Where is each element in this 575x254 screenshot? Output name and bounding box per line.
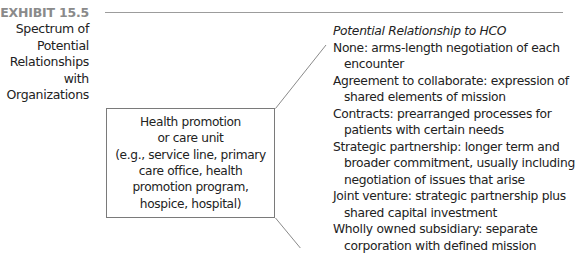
relationship-item-strategic-partnership: Strategic partnership: longer term and b…: [333, 139, 567, 189]
relationship-item-line: negotiation of issues that arise: [333, 172, 567, 189]
lower-connector-line: [276, 218, 303, 248]
exhibit-caption: EXHIBIT 15.5 Spectrum of Potential Relat…: [0, 4, 89, 104]
exhibit-title-line: Relationships: [0, 54, 89, 71]
relationship-item-line: shared elements of mission: [333, 89, 567, 106]
relationship-item-line: Wholly owned subsidiary: separate: [333, 221, 567, 238]
exhibit-number: EXHIBIT 15.5: [0, 4, 89, 21]
relationship-item-line: corporation with defined mission: [333, 238, 567, 254]
relationship-item-wholly-owned-subsidiary: Wholly owned subsidiary: separate corpor…: [333, 221, 567, 254]
unit-box-line: hospice, hospital): [115, 196, 266, 212]
relationship-list: Potential Relationship to HCO None: arms…: [333, 23, 567, 254]
upper-connector-line: [276, 45, 327, 109]
relationship-item-none: None: arms-length negotiation of each en…: [333, 40, 567, 73]
relationship-item-line: Strategic partnership: longer term and: [333, 139, 567, 156]
relationship-item-line: encounter: [333, 56, 567, 73]
relationship-item-line: Agreement to collaborate: expression of: [333, 73, 567, 90]
exhibit-title-line: Organizations: [0, 87, 89, 104]
relationship-item-line: Contracts: prearranged processes for: [333, 106, 567, 123]
relationship-item-joint-venture: Joint venture: strategic partnership plu…: [333, 188, 567, 221]
top-divider-rule: [105, 12, 563, 13]
exhibit-title-line: Potential: [0, 38, 89, 55]
unit-box-text: Health promotion or care unit (e.g., ser…: [115, 114, 266, 212]
relationship-item-line: patients with certain needs: [333, 122, 567, 139]
unit-box-line: Health promotion: [115, 114, 266, 130]
unit-box-line: or care unit: [115, 130, 266, 146]
unit-box-line: promotion program,: [115, 179, 266, 195]
relationship-item-line: Joint venture: strategic partnership plu…: [333, 188, 567, 205]
relationship-item-contracts: Contracts: prearranged processes for pat…: [333, 106, 567, 139]
relationship-item-agreement: Agreement to collaborate: expression of …: [333, 73, 567, 106]
unit-box-line: care office, health: [115, 163, 266, 179]
unit-box-line: (e.g., service line, primary: [115, 147, 266, 163]
relationship-item-line: None: arms-length negotiation of each: [333, 40, 567, 57]
relationship-item-line: shared capital investment: [333, 205, 567, 222]
relationship-list-heading: Potential Relationship to HCO: [333, 23, 567, 40]
exhibit-title-line: with: [0, 71, 89, 88]
relationship-item-line: broader commitment, usually including: [333, 155, 567, 172]
health-care-unit-box: Health promotion or care unit (e.g., ser…: [106, 108, 275, 218]
exhibit-title-line: Spectrum of: [0, 21, 89, 38]
